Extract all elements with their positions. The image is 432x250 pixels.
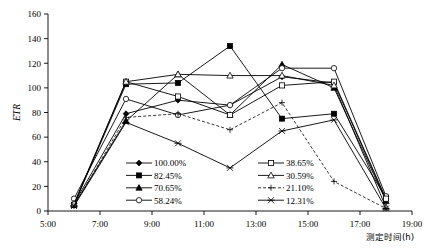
legend-label: 38.65%: [286, 158, 314, 168]
marker-cross: [330, 117, 337, 123]
marker-filled-square: [332, 111, 337, 116]
etr-line-chart: 0204060801001201401605:007:009:0011:0013…: [0, 0, 432, 250]
y-tick-label: 80: [32, 108, 42, 118]
marker-open-square: [268, 160, 273, 165]
y-tick-label: 100: [28, 83, 42, 93]
y-tick-label: 20: [32, 182, 42, 192]
x-tick-label: 9:00: [144, 219, 161, 229]
x-tick-label: 7:00: [92, 219, 109, 229]
marker-open-triangle: [175, 71, 181, 77]
y-tick-label: 0: [37, 206, 42, 216]
x-tick-label: 19:00: [402, 219, 423, 229]
marker-open-circle: [279, 65, 284, 70]
chart-canvas: 0204060801001201401605:007:009:0011:0013…: [0, 0, 432, 250]
marker-cross: [278, 128, 285, 134]
legend-label: 82.45%: [154, 171, 182, 181]
legend-label: 12.31%: [286, 196, 314, 206]
marker-filled-square: [228, 44, 233, 49]
y-tick-label: 120: [28, 59, 42, 69]
legend-label: 100.00%: [154, 158, 187, 168]
legend-label: 58.24%: [154, 196, 182, 206]
marker-filled-square: [280, 116, 285, 121]
marker-open-square: [383, 196, 388, 201]
series-line: [74, 68, 386, 199]
marker-filled-square: [137, 173, 142, 178]
series-30-59pct: [71, 71, 389, 210]
y-tick-label: 40: [32, 157, 42, 167]
legend-label: 70.65%: [154, 183, 182, 193]
marker-open-circle: [136, 198, 141, 203]
marker-open-circle: [227, 102, 232, 107]
y-tick-label: 160: [28, 9, 42, 19]
series-line: [74, 120, 386, 209]
x-tick-label: 11:00: [194, 219, 215, 229]
marker-filled-diamond: [136, 160, 142, 166]
marker-cross: [174, 140, 181, 146]
x-tick-label: 13:00: [246, 219, 267, 229]
marker-open-square: [279, 83, 284, 88]
y-tick-label: 140: [28, 34, 42, 44]
legend: 100.00%82.45%70.65%58.24%38.65%30.59%21.…: [126, 158, 314, 205]
legend-label: 21.10%: [286, 183, 314, 193]
x-tick-label: 15:00: [298, 219, 319, 229]
y-axis-title: ETR: [12, 104, 22, 122]
legend-label: 30.59%: [286, 171, 314, 181]
marker-plus: [268, 185, 274, 191]
series-100-00pct: [71, 74, 389, 207]
marker-open-circle: [123, 96, 128, 101]
series-line: [74, 46, 386, 205]
marker-open-square: [175, 94, 180, 99]
x-axis-title: 测定时间(h): [366, 232, 414, 242]
x-tick-label: 17:00: [350, 219, 371, 229]
x-tick-label: 5:00: [40, 219, 57, 229]
marker-plus: [279, 100, 285, 106]
y-tick-label: 60: [32, 132, 42, 142]
marker-filled-square: [176, 80, 181, 85]
marker-cross: [226, 165, 233, 171]
series-line: [74, 103, 386, 209]
marker-plus: [227, 127, 233, 133]
marker-cross: [267, 197, 274, 203]
series-line: [74, 64, 386, 204]
marker-open-square: [227, 112, 232, 117]
marker-plus: [331, 178, 337, 184]
marker-open-circle: [331, 65, 336, 70]
